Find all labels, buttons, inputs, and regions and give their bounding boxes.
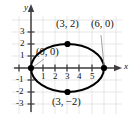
y-tick-label-minus3: -3 [16,99,24,108]
point-3-minus2 [64,89,70,95]
y-axis-label: y [24,3,28,12]
x-tick-label-5: 5 [90,72,95,81]
y-tick-label-minus1: -1 [16,75,24,84]
x-tick-label-1: 1 [41,72,46,81]
point-6-0 [101,65,107,71]
point-label-6-0: (6, 0) [91,19,114,30]
point-label-3-2: (3, 2) [56,19,79,30]
y-tick-label-minus2: -2 [16,87,24,96]
y-axis-arrowhead [28,4,34,12]
point-0-0 [28,65,34,71]
x-axis-arrowhead [114,65,122,71]
point-label-0-0: (0, 0) [36,47,59,58]
x-axis-label: x [124,62,128,71]
leader-origin [33,59,45,68]
point-label-3-minus2: (3, −2) [52,97,81,108]
x-tick-label-2: 2 [53,72,58,81]
x-tick-label-3: 3 [65,72,70,81]
y-tick-label-1: 1 [20,51,25,60]
point-3-2 [64,41,70,47]
y-tick-label-2: 2 [20,39,25,48]
x-tick-label-4: 4 [77,72,82,81]
ellipse-figure: 3 2 1 -1 -2 -3 1 2 3 4 5 y x (3, 2) (6, … [0,0,135,121]
y-tick-label-3: 3 [20,27,25,36]
